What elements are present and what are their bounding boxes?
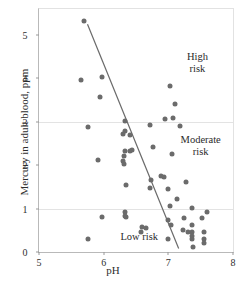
x-tick-mark-6 [103, 252, 104, 255]
data-point [123, 215, 128, 220]
scatter-chart: Mercury in adult blood, ppm pH High risk… [0, 0, 247, 282]
data-point [168, 84, 173, 89]
data-point [181, 215, 186, 220]
zone-label-moderate: Moderate risk [181, 134, 221, 158]
y-tick-mark-1 [36, 208, 39, 209]
data-point [121, 131, 126, 136]
y-tick-mark-2 [36, 165, 39, 166]
y-tick-label-3: 3 [16, 116, 34, 127]
y-tick-mark-5 [36, 35, 39, 36]
data-point [98, 94, 103, 99]
data-point [85, 124, 90, 129]
data-point [99, 74, 104, 79]
x-tick-label-6: 6 [95, 257, 113, 268]
data-point [148, 178, 153, 183]
data-point [177, 124, 182, 129]
data-point [163, 116, 168, 121]
data-point [150, 144, 155, 149]
x-tick-mark-5 [39, 252, 40, 255]
x-tick-label-5: 5 [30, 257, 48, 268]
data-point [201, 230, 206, 235]
y-axis-title: Mercury in adult blood, ppm [18, 42, 30, 222]
data-point [165, 217, 170, 222]
data-point [190, 245, 195, 250]
y-tick-label-2: 2 [16, 160, 34, 171]
data-point [130, 148, 135, 153]
data-point [168, 223, 173, 228]
data-point [166, 187, 171, 192]
x-tick-mark-8 [233, 252, 234, 255]
y-tick-mark-3 [36, 121, 39, 122]
x-tick-label-7: 7 [159, 257, 177, 268]
y-tick-mark-4 [36, 78, 39, 79]
data-point [99, 214, 104, 219]
data-point [121, 161, 126, 166]
data-point [189, 205, 194, 210]
data-point [79, 77, 84, 82]
plot-area: High riskModerate riskLow risk [39, 9, 233, 252]
data-point [170, 152, 175, 157]
data-point [172, 102, 177, 107]
plot-frame: High riskModerate riskLow risk 012345567… [38, 8, 234, 253]
data-point [201, 240, 206, 245]
y-tick-label-5: 5 [16, 30, 34, 41]
data-point [199, 216, 204, 221]
zone-label-low-risk: Low risk [120, 231, 158, 243]
y-tick-label-1: 1 [16, 203, 34, 214]
data-point [170, 116, 175, 121]
data-point [82, 18, 87, 23]
data-point [190, 237, 195, 242]
data-point [184, 179, 189, 184]
data-point [123, 183, 128, 188]
data-point [168, 204, 173, 209]
data-point [174, 196, 179, 201]
data-point [86, 236, 91, 241]
data-point [96, 157, 101, 162]
x-tick-mark-7 [168, 252, 169, 255]
data-point [189, 223, 194, 228]
data-point [162, 174, 167, 179]
zone-label-high-risk: High risk [180, 51, 216, 75]
data-point [165, 236, 170, 241]
data-point [148, 186, 153, 191]
data-point [205, 209, 210, 214]
trend-line [39, 9, 233, 252]
x-tick-label-8: 8 [224, 257, 242, 268]
y-tick-label-0: 0 [16, 247, 34, 258]
y-tick-label-4: 4 [16, 73, 34, 84]
data-point [123, 119, 128, 124]
data-point [148, 122, 153, 127]
data-point [127, 132, 132, 137]
